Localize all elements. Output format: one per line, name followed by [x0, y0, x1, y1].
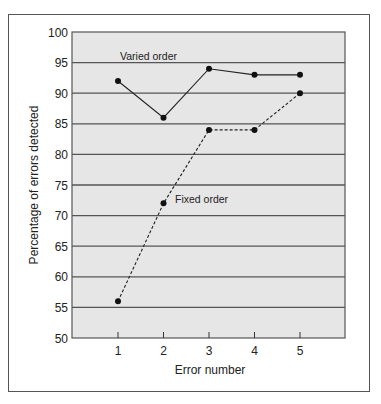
- y-tick-label: 50: [55, 332, 69, 346]
- data-point: [206, 127, 212, 133]
- data-point: [297, 72, 303, 78]
- y-tick-label: 55: [55, 301, 69, 315]
- y-tick-label: 100: [48, 26, 68, 40]
- line-chart: 50556065707580859095100 12345 Error numb…: [0, 0, 381, 404]
- data-point: [297, 90, 303, 96]
- data-point: [115, 298, 121, 304]
- data-point: [161, 200, 167, 206]
- x-tick-label: 1: [115, 344, 122, 358]
- y-tick-label: 90: [55, 87, 69, 101]
- data-point: [252, 72, 258, 78]
- y-tick-label: 85: [55, 117, 69, 131]
- data-point: [206, 66, 212, 72]
- x-tick-label: 3: [206, 344, 213, 358]
- x-tick-label: 5: [297, 344, 304, 358]
- y-tick-label: 65: [55, 240, 69, 254]
- y-tick-label: 75: [55, 179, 69, 193]
- series-label-varied-order: Varied order: [120, 50, 178, 62]
- data-point: [252, 127, 258, 133]
- y-tick-label: 95: [55, 56, 69, 70]
- x-tick-label: 2: [160, 344, 167, 358]
- series-label-fixed-order: Fixed order: [175, 193, 229, 205]
- y-tick-label: 60: [55, 270, 69, 284]
- y-tick-label: 70: [55, 209, 69, 223]
- x-tick-label: 4: [251, 344, 258, 358]
- data-point: [115, 78, 121, 84]
- y-tick-label: 80: [55, 148, 69, 162]
- data-point: [161, 115, 167, 121]
- y-axis-title: Percentage of errors detected: [27, 106, 41, 265]
- y-axis-ticks: 50556065707580859095100: [48, 26, 68, 346]
- x-axis-title: Error number: [175, 363, 246, 377]
